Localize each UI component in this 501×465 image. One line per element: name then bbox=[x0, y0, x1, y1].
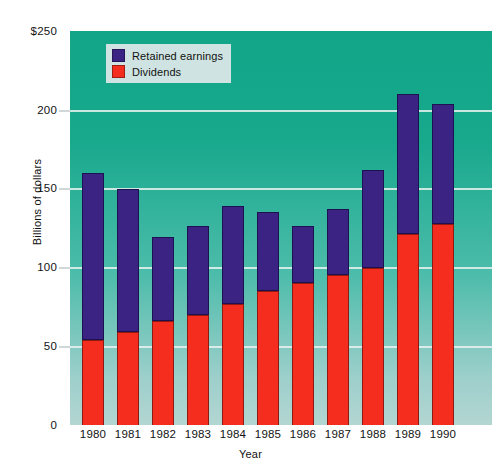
chart-legend: Retained earnings Dividends bbox=[106, 44, 231, 83]
bar-segment-dividends bbox=[222, 304, 244, 425]
bar-segment-retained bbox=[152, 237, 174, 321]
legend-label: Dividends bbox=[132, 66, 181, 78]
bar-segment-dividends bbox=[397, 234, 419, 425]
y-tick-label: 0 bbox=[50, 419, 57, 431]
bar-1980[interactable] bbox=[82, 173, 104, 425]
bar-segment-dividends bbox=[257, 291, 279, 425]
bar-1983[interactable] bbox=[187, 226, 209, 425]
bar-segment-retained bbox=[117, 189, 139, 332]
x-tick-label-1981: 1981 bbox=[108, 428, 148, 440]
bar-segment-dividends bbox=[292, 283, 314, 425]
y-axis: $250 200 150 100 50 0 Billions of dollar… bbox=[0, 0, 70, 465]
y-tick-label: $250 bbox=[31, 25, 57, 37]
bar-segment-retained bbox=[362, 170, 384, 268]
bar-segment-dividends bbox=[187, 315, 209, 425]
x-axis-title: Year bbox=[0, 448, 501, 460]
bar-1985[interactable] bbox=[257, 212, 279, 425]
y-tick-label: 200 bbox=[37, 104, 57, 116]
bar-segment-dividends bbox=[432, 224, 454, 425]
bar-1981[interactable] bbox=[117, 189, 139, 425]
legend-item-retained-earnings[interactable]: Retained earnings bbox=[112, 49, 223, 62]
y-tick-label: 50 bbox=[44, 340, 57, 352]
plot-area: Retained earnings Dividends bbox=[70, 31, 492, 425]
bar-1984[interactable] bbox=[222, 206, 244, 425]
bar-segment-retained bbox=[187, 226, 209, 315]
bar-segment-retained bbox=[432, 104, 454, 224]
y-tick-mark bbox=[59, 346, 70, 348]
bar-segment-dividends bbox=[327, 275, 349, 425]
bar-1987[interactable] bbox=[327, 209, 349, 425]
bar-segment-dividends bbox=[362, 268, 384, 425]
x-tick-label-1987: 1987 bbox=[318, 428, 358, 440]
legend-swatch-icon bbox=[112, 49, 125, 62]
bar-segment-dividends bbox=[82, 340, 104, 425]
x-tick-label-1980: 1980 bbox=[73, 428, 113, 440]
y-tick-mark bbox=[59, 188, 70, 190]
bar-segment-retained bbox=[82, 173, 104, 340]
x-axis: 1980 1981 1982 1983 1984 1985 1986 1987 … bbox=[70, 428, 492, 448]
x-tick-label-1984: 1984 bbox=[213, 428, 253, 440]
bar-1986[interactable] bbox=[292, 226, 314, 425]
x-tick-label-1982: 1982 bbox=[143, 428, 183, 440]
stacked-bar-chart: $250 200 150 100 50 0 Billions of dollar… bbox=[0, 0, 501, 465]
legend-item-dividends[interactable]: Dividends bbox=[112, 65, 223, 78]
bar-segment-retained bbox=[292, 226, 314, 283]
y-axis-title: Billions of dollars bbox=[31, 127, 43, 277]
bar-1990[interactable] bbox=[432, 104, 454, 425]
bar-segment-retained bbox=[257, 212, 279, 291]
bar-segment-dividends bbox=[152, 321, 174, 425]
x-tick-label-1989: 1989 bbox=[388, 428, 428, 440]
x-tick-label-1985: 1985 bbox=[248, 428, 288, 440]
bar-1982[interactable] bbox=[152, 237, 174, 425]
legend-label: Retained earnings bbox=[132, 50, 223, 62]
bar-1989[interactable] bbox=[397, 94, 419, 425]
x-tick-label-1986: 1986 bbox=[283, 428, 323, 440]
x-tick-label-1990: 1990 bbox=[423, 428, 463, 440]
legend-swatch-icon bbox=[112, 65, 125, 78]
gridline-200 bbox=[70, 110, 492, 112]
bar-segment-retained bbox=[397, 94, 419, 234]
x-tick-label-1983: 1983 bbox=[178, 428, 218, 440]
bar-1988[interactable] bbox=[362, 170, 384, 425]
y-tick-mark bbox=[59, 110, 70, 112]
x-tick-label-1988: 1988 bbox=[353, 428, 393, 440]
y-tick-mark bbox=[59, 267, 70, 269]
bar-segment-dividends bbox=[117, 332, 139, 425]
bar-segment-retained bbox=[327, 209, 349, 275]
bar-segment-retained bbox=[222, 206, 244, 304]
